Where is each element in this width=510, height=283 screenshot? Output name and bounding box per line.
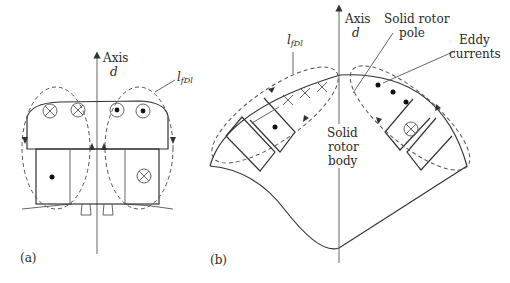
leader-line-flux-a bbox=[155, 80, 175, 92]
dot-symbol bbox=[273, 125, 278, 130]
cross-in-symbol bbox=[137, 169, 151, 183]
figure-canvas: Axis d bbox=[0, 0, 510, 283]
eddy-dot bbox=[404, 100, 409, 105]
solid-rotor-body-label-3: body bbox=[328, 154, 358, 168]
arrow-down-icon bbox=[170, 137, 176, 144]
leader-line-eddy bbox=[383, 51, 455, 83]
flux-label-a: lfDl bbox=[177, 70, 193, 85]
cross-in-symbol bbox=[71, 103, 85, 117]
arrow-icon bbox=[303, 115, 309, 122]
winding-right-b bbox=[385, 99, 452, 170]
cross-in-symbol bbox=[43, 104, 57, 118]
flux-label-b: lfDl bbox=[287, 33, 303, 48]
dot-symbol bbox=[50, 175, 55, 180]
eddy-currents-label-2: currents bbox=[449, 47, 501, 61]
axis-label-b: Axis bbox=[344, 12, 370, 26]
slot-right bbox=[103, 204, 113, 215]
figure-a: Axis d bbox=[20, 51, 193, 265]
eddy-dot bbox=[376, 83, 381, 88]
pole-body-a bbox=[36, 149, 159, 204]
leader-line-pole bbox=[353, 33, 393, 93]
eddy-dot bbox=[391, 90, 396, 95]
eddy-currents-label: Eddy bbox=[459, 33, 490, 47]
solid-rotor-body-label: Solid bbox=[327, 126, 358, 140]
rotor-body-outline bbox=[210, 166, 467, 249]
solid-rotor-pole-label-2: pole bbox=[399, 26, 425, 40]
axis-d-label-b: d bbox=[352, 26, 360, 40]
flux-loop-left-a bbox=[22, 87, 90, 209]
panel-label-a: (a) bbox=[20, 251, 37, 265]
arrow-up-icon bbox=[101, 143, 107, 150]
solid-rotor-pole-label: Solid rotor bbox=[384, 12, 450, 26]
slot-left bbox=[81, 204, 91, 215]
panel-label-b: (b) bbox=[210, 253, 227, 267]
dot-out-symbol bbox=[136, 104, 150, 118]
axis-d-label-a: d bbox=[110, 65, 118, 79]
figure-b: Axis d bbox=[199, 8, 501, 267]
solid-rotor-body-label-2: rotor bbox=[328, 140, 359, 154]
pole-shoe-a bbox=[27, 101, 168, 149]
axis-label-a: Axis bbox=[102, 51, 128, 65]
flux-loop-right-b bbox=[336, 50, 484, 186]
